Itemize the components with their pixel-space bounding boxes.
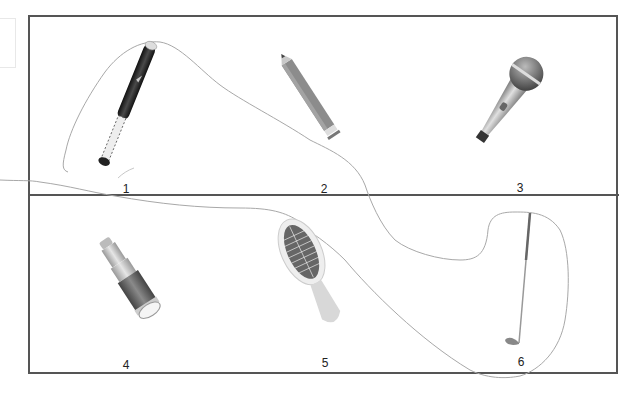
microphone-icon xyxy=(466,50,550,150)
item-number-6: 6 xyxy=(511,355,531,369)
item-number-5: 5 xyxy=(315,356,335,370)
telescope-icon xyxy=(93,233,164,323)
item-number-3: 3 xyxy=(510,181,530,195)
item-number-2: 2 xyxy=(314,182,334,196)
pencil-icon xyxy=(275,50,340,140)
trace-line xyxy=(0,42,568,378)
item-number-1: 1 xyxy=(116,182,136,196)
item-number-4: 4 xyxy=(116,358,136,372)
worksheet: 1 2 3 4 5 6 xyxy=(0,0,639,400)
baseball-bat-icon xyxy=(97,40,158,168)
hairbrush-icon xyxy=(269,212,353,330)
golf-club-icon xyxy=(505,213,530,345)
illustrations xyxy=(0,0,639,400)
